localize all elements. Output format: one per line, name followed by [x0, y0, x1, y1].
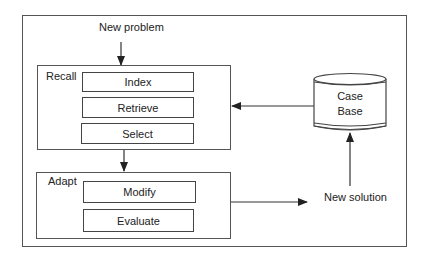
new-solution-label: New solution: [324, 191, 387, 203]
step-select: Select: [81, 123, 194, 144]
step-evaluate: Evaluate: [83, 209, 194, 232]
case-base-line2: Base: [314, 104, 386, 119]
new-problem-label: New problem: [99, 21, 164, 33]
recall-group-label: Recall: [46, 70, 77, 82]
case-base-label: Case Base: [314, 89, 386, 119]
step-modify: Modify: [83, 181, 196, 203]
step-index: Index: [82, 72, 194, 92]
step-retrieve: Retrieve: [82, 97, 194, 118]
adapt-group-label: Adapt: [48, 175, 77, 187]
case-base-line1: Case: [314, 89, 386, 104]
